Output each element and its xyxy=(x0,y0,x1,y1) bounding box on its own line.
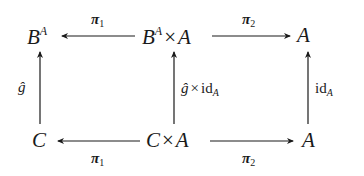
label-symbol: π xyxy=(91,11,99,27)
label-symbol: π xyxy=(242,150,250,166)
node-base: C xyxy=(146,128,160,152)
label-subscript: A xyxy=(213,87,219,98)
node-exponent: A xyxy=(155,24,162,38)
label-subscript: 2 xyxy=(250,18,255,29)
node-base: A xyxy=(297,23,310,47)
label-symbol: π xyxy=(242,11,250,27)
node-top-left: BA xyxy=(27,25,47,48)
label-subscript: 2 xyxy=(250,157,255,168)
label-id: id xyxy=(201,80,213,96)
node-base: A xyxy=(302,128,315,152)
label-symbol: π xyxy=(91,150,99,166)
node-base: B xyxy=(142,25,155,49)
node-base: C xyxy=(32,128,46,152)
label-bot-pi1: π1 xyxy=(91,151,104,168)
node-exponent: A xyxy=(40,24,47,38)
label-id: id xyxy=(315,80,327,96)
label-mid-vert: ĝ×idA xyxy=(181,81,219,98)
node-base: B xyxy=(27,25,40,49)
label-right-vert: idA xyxy=(315,81,333,98)
node-right: A xyxy=(176,128,189,152)
label-top-pi1: π1 xyxy=(91,12,104,29)
label-subscript: A xyxy=(327,87,333,98)
node-bot-mid: C×A xyxy=(146,130,189,151)
label-top-pi2: π2 xyxy=(242,12,255,29)
node-right: A xyxy=(178,25,191,49)
times-symbol: × xyxy=(191,80,199,96)
label-subscript: 1 xyxy=(99,157,104,168)
times-symbol: × xyxy=(162,128,174,152)
node-bot-right: A xyxy=(302,130,315,151)
label-g-hat: ĝ xyxy=(18,79,26,95)
label-bot-pi2: π2 xyxy=(242,151,255,168)
node-top-mid: BA×A xyxy=(142,25,191,48)
node-bot-left: C xyxy=(32,130,46,151)
label-subscript: 1 xyxy=(99,18,104,29)
label-g-hat: ĝ xyxy=(181,80,189,96)
times-symbol: × xyxy=(164,25,176,49)
label-left-vert: ĝ xyxy=(18,80,26,95)
node-top-right: A xyxy=(297,25,310,46)
